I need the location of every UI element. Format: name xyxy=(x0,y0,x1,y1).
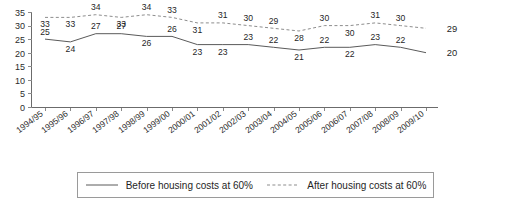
y-axis: 05101520253035 xyxy=(15,8,32,113)
svg-text:2002/03: 2002/03 xyxy=(217,108,248,135)
svg-text:2009/10: 2009/10 xyxy=(395,108,426,135)
svg-text:25: 25 xyxy=(15,35,25,45)
svg-text:2006/07: 2006/07 xyxy=(319,108,350,135)
svg-text:30: 30 xyxy=(243,13,253,23)
svg-text:2008/09: 2008/09 xyxy=(370,108,401,135)
svg-text:34: 34 xyxy=(91,2,101,12)
svg-text:23: 23 xyxy=(370,32,380,42)
data-point-labels: 2524272726262323232221222223223333343334… xyxy=(40,2,405,62)
line-chart-svg: 05101520253035 1994/951995/961996/971997… xyxy=(0,0,508,160)
svg-text:31: 31 xyxy=(193,25,203,35)
svg-text:1996/97: 1996/97 xyxy=(65,108,96,135)
svg-text:15: 15 xyxy=(15,62,25,72)
svg-text:20: 20 xyxy=(447,47,457,58)
svg-text:30: 30 xyxy=(396,13,406,23)
chart-screenshot: 05101520253035 1994/951995/961996/971997… xyxy=(0,0,508,208)
legend-item-after-housing-costs: After housing costs at 60% xyxy=(266,180,426,191)
svg-text:22: 22 xyxy=(345,49,355,59)
svg-text:30: 30 xyxy=(320,13,330,23)
svg-text:22: 22 xyxy=(269,35,279,45)
svg-text:1994/95: 1994/95 xyxy=(14,108,45,135)
svg-text:33: 33 xyxy=(167,5,177,15)
legend-label-after-housing-costs: After housing costs at 60% xyxy=(307,180,426,191)
svg-text:31: 31 xyxy=(218,10,228,20)
svg-text:23: 23 xyxy=(218,47,228,57)
svg-text:1999/00: 1999/00 xyxy=(141,108,172,135)
svg-text:33: 33 xyxy=(40,19,50,29)
svg-text:33: 33 xyxy=(66,19,76,29)
svg-text:33: 33 xyxy=(116,19,126,29)
svg-text:30: 30 xyxy=(15,21,25,31)
svg-text:1997/98: 1997/98 xyxy=(90,108,121,135)
svg-text:2007/08: 2007/08 xyxy=(344,108,375,135)
legend-item-before-housing-costs: Before housing costs at 60% xyxy=(85,180,253,191)
svg-text:2001/02: 2001/02 xyxy=(192,108,223,135)
x-axis: 1994/951995/961996/971997/981998/991999/… xyxy=(14,108,438,136)
svg-text:2003/04: 2003/04 xyxy=(243,108,274,135)
svg-text:27: 27 xyxy=(91,21,101,31)
svg-text:29: 29 xyxy=(269,16,279,26)
svg-text:23: 23 xyxy=(193,47,203,57)
series-end-labels: 2029 xyxy=(447,23,457,58)
svg-text:1998/99: 1998/99 xyxy=(116,108,147,135)
svg-text:0: 0 xyxy=(20,103,25,113)
svg-text:20: 20 xyxy=(15,49,25,59)
legend-label-before-housing-costs: Before housing costs at 60% xyxy=(126,180,253,191)
svg-text:26: 26 xyxy=(142,38,152,48)
svg-text:21: 21 xyxy=(294,52,304,62)
svg-text:26: 26 xyxy=(167,24,177,34)
svg-text:22: 22 xyxy=(320,35,330,45)
svg-text:1995/96: 1995/96 xyxy=(39,108,70,135)
svg-text:5: 5 xyxy=(20,89,25,99)
svg-text:2005/06: 2005/06 xyxy=(293,108,324,135)
svg-text:34: 34 xyxy=(142,2,152,12)
svg-text:10: 10 xyxy=(15,76,25,86)
svg-text:29: 29 xyxy=(447,23,457,34)
svg-text:28: 28 xyxy=(294,33,304,43)
svg-text:2000/01: 2000/01 xyxy=(166,108,197,135)
svg-text:23: 23 xyxy=(243,32,253,42)
svg-text:35: 35 xyxy=(15,8,25,18)
legend-swatch-dashed-icon xyxy=(266,181,300,189)
svg-text:31: 31 xyxy=(370,10,380,20)
chart-series-group xyxy=(45,15,426,53)
legend-swatch-solid-icon xyxy=(85,181,119,189)
svg-text:30: 30 xyxy=(345,28,355,38)
svg-text:24: 24 xyxy=(66,44,76,54)
svg-text:22: 22 xyxy=(396,35,406,45)
svg-text:2004/05: 2004/05 xyxy=(268,108,299,135)
chart-legend: Before housing costs at 60% After housin… xyxy=(77,172,434,198)
chart-plot-area: 05101520253035 1994/951995/961996/971997… xyxy=(0,0,508,160)
